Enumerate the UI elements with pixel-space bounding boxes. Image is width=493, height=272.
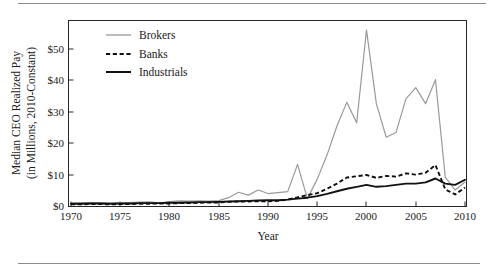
plot-frame (69, 21, 467, 207)
legend-label-banks: Banks (139, 48, 168, 60)
x-tick-label-1990: 1990 (257, 210, 280, 222)
x-tick-label-2010: 2010 (454, 210, 477, 222)
figure-container: $50 $40 $30 $20 $10 $0 1970 1975 1980 19… (0, 0, 493, 272)
chart-legend: Brokers Banks Industrials (106, 29, 188, 78)
legend-label-industrials: Industrials (139, 66, 188, 78)
y-tick-label-40: $40 (48, 74, 65, 86)
legend-item-brokers[interactable]: Brokers (106, 29, 176, 41)
x-tick-label-1995: 1995 (306, 210, 329, 222)
y-tick-label-30: $30 (48, 106, 65, 118)
x-tick-label-1980: 1980 (158, 210, 181, 222)
y-axis-title-line1: Median CEO Realized Pay (10, 51, 23, 175)
series-line-banks (71, 165, 465, 204)
x-tick-label-2005: 2005 (405, 210, 428, 222)
legend-item-industrials[interactable]: Industrials (106, 66, 188, 78)
y-axis-ticks (69, 49, 74, 175)
y-axis-tick-labels: $50 $40 $30 $20 $10 $0 (48, 43, 65, 212)
x-tick-label-1975: 1975 (109, 210, 132, 222)
legend-label-brokers: Brokers (139, 29, 176, 41)
y-axis-title-line2: (in Millions, 2010-Constant) (25, 47, 38, 179)
x-tick-label-1985: 1985 (208, 210, 231, 222)
x-axis-tick-labels: 1970 1975 1980 1985 1990 1995 2000 2005 … (60, 210, 477, 222)
y-tick-label-10: $10 (48, 169, 65, 181)
x-axis-title: Year (257, 230, 278, 242)
series-group (71, 30, 465, 204)
series-line-industrials (71, 178, 465, 203)
line-chart: $50 $40 $30 $20 $10 $0 1970 1975 1980 19… (0, 0, 493, 272)
series-line-brokers (71, 30, 465, 203)
y-tick-label-20: $20 (48, 137, 65, 149)
x-tick-label-1970: 1970 (60, 210, 83, 222)
legend-item-banks[interactable]: Banks (106, 48, 168, 60)
x-tick-label-2000: 2000 (355, 210, 378, 222)
y-tick-label-50: $50 (48, 43, 65, 55)
